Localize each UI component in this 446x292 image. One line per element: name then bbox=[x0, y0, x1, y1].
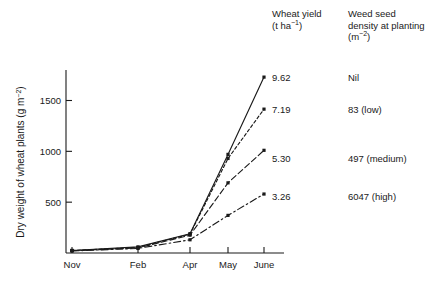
chart-page: 50010001500 NovFebAprMayJune Dry weight … bbox=[0, 0, 446, 292]
series-line-0 bbox=[72, 77, 264, 250]
series-point-0-3 bbox=[226, 153, 229, 156]
legend-table: Wheat yield (t ha−1) Weed seed density a… bbox=[272, 8, 446, 43]
series-line-3 bbox=[72, 194, 264, 251]
series-point-3-3 bbox=[226, 214, 229, 217]
legend-wheat-yield-value: 5.30 bbox=[272, 153, 348, 164]
legend-header-wheat-yield: Wheat yield (t ha−1) bbox=[272, 8, 348, 31]
legend-row: 3.266047 (high) bbox=[272, 191, 446, 202]
series-point-3-4 bbox=[262, 192, 265, 195]
legend-weed-density-value: Nil bbox=[348, 72, 446, 83]
legend-weed-density-value: 497 (medium) bbox=[348, 153, 446, 164]
legend-row: 5.30497 (medium) bbox=[272, 153, 446, 164]
yield-unit-sup: −1 bbox=[291, 18, 299, 25]
legend-row: 7.1983 (low) bbox=[272, 104, 446, 115]
x-axis-ticks: NovFebAprMayJune bbox=[64, 247, 275, 270]
legend-header-row: Wheat yield (t ha−1) Weed seed density a… bbox=[272, 8, 446, 43]
legend-header-weed-density-units: (m−2) bbox=[348, 31, 446, 43]
x-tick-label: June bbox=[254, 259, 275, 270]
legend-weed-density-value: 83 (low) bbox=[348, 104, 446, 115]
x-tick-label: Feb bbox=[130, 259, 146, 270]
y-tick-label: 1500 bbox=[40, 95, 61, 106]
series-point-3-1 bbox=[136, 247, 139, 250]
series-point-2-2 bbox=[188, 234, 191, 237]
y-tick-label: 1000 bbox=[40, 146, 61, 157]
legend-wheat-yield-value: 7.19 bbox=[272, 104, 348, 115]
series-point-2-4 bbox=[262, 149, 265, 152]
density-unit-pre: (m bbox=[348, 31, 359, 42]
legend-row: 9.62Nil bbox=[272, 72, 446, 83]
density-unit-post: ) bbox=[367, 31, 370, 42]
series-point-3-2 bbox=[188, 238, 191, 241]
yield-unit-post: ) bbox=[299, 20, 302, 31]
legend-header-weed-density: Weed seed density at planting (m−2) bbox=[348, 8, 446, 43]
legend-header-weed-density-line1: Weed seed bbox=[348, 8, 446, 20]
series-point-0-4 bbox=[262, 76, 265, 79]
y-axis-ticks: 50010001500 bbox=[40, 95, 72, 208]
x-tick-label: May bbox=[219, 259, 237, 270]
legend-weed-density-value: 6047 (high) bbox=[348, 191, 446, 202]
series-point-1-4 bbox=[262, 108, 265, 111]
series-line-2 bbox=[72, 150, 264, 250]
series-point-1-3 bbox=[226, 157, 229, 160]
y-tick-label: 500 bbox=[45, 197, 61, 208]
series-line-1 bbox=[72, 109, 264, 250]
legend-wheat-yield-value: 3.26 bbox=[272, 191, 348, 202]
chart-svg: 50010001500 NovFebAprMayJune Dry weight … bbox=[0, 0, 290, 292]
x-tick-label: Nov bbox=[64, 259, 81, 270]
density-unit-sup: −2 bbox=[359, 30, 367, 37]
x-tick-label: Apr bbox=[183, 259, 198, 270]
yield-unit-pre: (t ha bbox=[272, 20, 291, 31]
line-chart: 50010001500 NovFebAprMayJune Dry weight … bbox=[0, 0, 290, 292]
legend-header-wheat-yield-line1: Wheat yield bbox=[272, 8, 348, 20]
legend-wheat-yield-value: 9.62 bbox=[272, 72, 348, 83]
legend-header-wheat-yield-units: (t ha−1) bbox=[272, 20, 348, 32]
y-axis-title: Dry weight of wheat plants (g m−2) bbox=[15, 86, 26, 237]
series-point-2-3 bbox=[226, 181, 229, 184]
series-point-3-0 bbox=[70, 249, 73, 252]
chart-series-group bbox=[70, 76, 265, 253]
